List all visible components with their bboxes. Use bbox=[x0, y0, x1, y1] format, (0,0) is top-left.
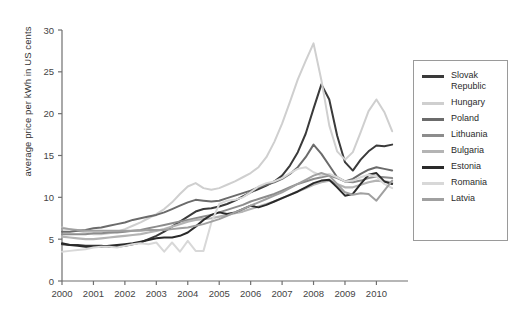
legend-item-lithuania[interactable]: Lithuania bbox=[414, 129, 507, 140]
legend-swatch-icon bbox=[422, 118, 444, 121]
x-tick-label: 2009 bbox=[334, 288, 355, 299]
legend-item-romania[interactable]: Romania bbox=[414, 177, 507, 188]
legend-item-label: Hungary bbox=[451, 97, 485, 108]
legend-item-hungary[interactable]: Hungary bbox=[414, 97, 507, 108]
legend-item-label: Romania bbox=[451, 177, 487, 188]
y-tick-label: 10 bbox=[43, 192, 54, 203]
legend-swatch-icon bbox=[422, 166, 444, 169]
series-line-slovak-republic bbox=[62, 84, 392, 246]
legend-item-label: Poland bbox=[451, 113, 479, 124]
x-tick-label: 2004 bbox=[177, 288, 198, 299]
x-tick-label: 2006 bbox=[240, 288, 261, 299]
legend-item-slovak-republic[interactable]: Slovak Republic bbox=[414, 70, 507, 92]
y-tick-label: 30 bbox=[43, 25, 54, 36]
x-tick-label: 2005 bbox=[209, 288, 230, 299]
y-tick-label: 25 bbox=[43, 66, 54, 77]
x-tick-label: 2001 bbox=[83, 288, 104, 299]
x-tick-label: 2008 bbox=[303, 288, 324, 299]
y-tick-label: 0 bbox=[49, 276, 54, 287]
chart-legend: Slovak RepublicHungaryPolandLithuaniaBul… bbox=[413, 60, 508, 241]
legend-swatch-icon bbox=[422, 75, 444, 78]
legend-swatch-icon bbox=[422, 150, 444, 153]
legend-item-label: Lithuania bbox=[451, 129, 488, 140]
y-tick-label: 15 bbox=[43, 150, 54, 161]
legend-swatch-icon bbox=[422, 134, 444, 137]
y-tick-label: 20 bbox=[43, 108, 54, 119]
x-tick-label: 2002 bbox=[114, 288, 135, 299]
series-line-latvia bbox=[62, 173, 392, 231]
legend-item-label: Latvia bbox=[451, 193, 475, 204]
y-tick-label: 5 bbox=[49, 234, 54, 245]
legend-item-poland[interactable]: Poland bbox=[414, 113, 507, 124]
legend-item-bulgaria[interactable]: Bulgaria bbox=[414, 145, 507, 156]
legend-swatch-icon bbox=[422, 102, 444, 105]
legend-item-latvia[interactable]: Latvia bbox=[414, 193, 507, 204]
legend-swatch-icon bbox=[422, 182, 444, 185]
x-tick-label: 2010 bbox=[366, 288, 387, 299]
legend-item-label: Bulgaria bbox=[451, 145, 484, 156]
x-tick-label: 2000 bbox=[51, 288, 72, 299]
x-tick-label: 2003 bbox=[146, 288, 167, 299]
legend-swatch-icon bbox=[422, 198, 444, 201]
legend-item-label: Slovak Republic bbox=[451, 70, 507, 92]
legend-item-estonia[interactable]: Estonia bbox=[414, 161, 507, 172]
chart-figure: average price per kWh in US cents 051015… bbox=[0, 0, 521, 321]
legend-item-label: Estonia bbox=[451, 161, 481, 172]
legend-list: Slovak RepublicHungaryPolandLithuaniaBul… bbox=[414, 61, 507, 240]
series-line-hungary bbox=[62, 43, 392, 234]
x-tick-label: 2007 bbox=[272, 288, 293, 299]
